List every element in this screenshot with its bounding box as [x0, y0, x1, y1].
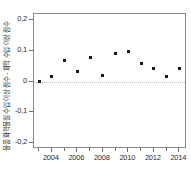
data-point: [101, 74, 104, 77]
y-axis-tick-label: 0,1: [17, 46, 27, 54]
data-point: [76, 70, 79, 73]
data-point: [152, 67, 155, 70]
x-axis-tick-label: 2012: [145, 154, 161, 162]
y-axis-tick-label: 0,2: [17, 15, 27, 23]
x-axis-tick-label: 2010: [119, 154, 135, 162]
data-point: [165, 75, 168, 78]
data-point: [114, 52, 117, 55]
x-axis-tick: [153, 148, 154, 152]
x-axis-tick-label: 2006: [68, 154, 84, 162]
y-axis-tick-label: -0,2: [15, 138, 27, 146]
x-axis-tick: [76, 148, 77, 152]
x-axis-tick-label: 2008: [94, 154, 110, 162]
y-axis-tick-label: 0: [23, 77, 27, 85]
x-axis-tick-label: 2004: [43, 154, 59, 162]
y-axis: 0,20,10-0,1-0,2: [0, 0, 33, 172]
zero-reference-line: [34, 82, 185, 83]
x-axis-minor-tick: [115, 148, 116, 151]
x-axis-minor-tick: [64, 148, 65, 151]
x-axis-tick: [178, 148, 179, 152]
plot-panel: [33, 13, 186, 148]
x-axis-tick: [102, 148, 103, 152]
data-point: [50, 75, 53, 78]
x-axis-minor-tick: [38, 148, 39, 151]
x-axis-minor-tick: [166, 148, 167, 151]
x-axis-tick: [127, 148, 128, 152]
data-point: [63, 59, 66, 62]
chart-figure: 물품 화학물질 수입 이상 점수 - 화학 수입 이상 점수 0,20,10-0…: [0, 0, 191, 172]
data-point: [89, 56, 92, 59]
data-point: [178, 67, 181, 70]
data-point: [38, 80, 41, 83]
data-point: [140, 62, 143, 65]
data-point: [127, 50, 130, 53]
x-axis-tick: [51, 148, 52, 152]
y-axis-tick-label: -0,1: [15, 107, 27, 115]
x-axis: 200420062008201020122014: [0, 148, 191, 172]
x-axis-tick-label: 2014: [170, 154, 186, 162]
x-axis-minor-tick: [140, 148, 141, 151]
x-axis-minor-tick: [89, 148, 90, 151]
